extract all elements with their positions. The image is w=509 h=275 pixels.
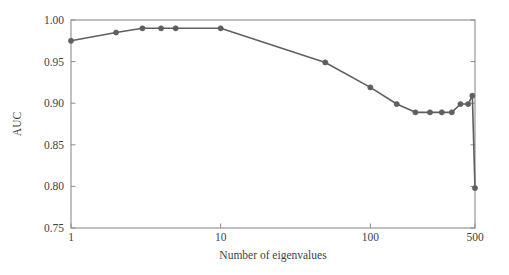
x-tick-label: 500: [466, 231, 484, 243]
y-tick-label: 0.90: [44, 97, 64, 109]
data-point-marker: [368, 85, 373, 90]
data-point-marker: [439, 110, 444, 115]
y-tick-label: 0.80: [44, 180, 64, 192]
y-axis-ticks: 0.750.800.850.900.951.00: [44, 14, 475, 234]
data-point-marker: [466, 101, 471, 106]
data-point-marker: [427, 110, 432, 115]
chart-figure: 110100500 0.750.800.850.900.951.00 Numbe…: [0, 0, 509, 275]
chart-canvas: 110100500 0.750.800.850.900.951.00 Numbe…: [0, 0, 509, 275]
x-axis-ticks: 110100500: [68, 224, 484, 244]
y-tick-label: 0.75: [44, 222, 64, 234]
data-point-marker: [413, 110, 418, 115]
data-point-marker: [470, 93, 475, 98]
data-point-marker: [159, 26, 164, 31]
y-tick-label: 1.00: [44, 14, 64, 26]
x-tick-label: 1: [68, 231, 74, 243]
data-point-marker: [113, 30, 118, 35]
data-point-marker: [458, 101, 463, 106]
x-tick-label: 10: [215, 231, 227, 243]
plot-frame: [71, 20, 475, 228]
y-tick-label: 0.95: [44, 56, 64, 68]
data-point-marker: [218, 26, 223, 31]
data-point-marker: [394, 101, 399, 106]
data-series-layer: [68, 26, 477, 191]
data-point-marker: [449, 110, 454, 115]
y-tick-label: 0.85: [44, 139, 64, 151]
data-point-marker: [472, 185, 477, 190]
y-axis-title: AUC: [11, 112, 23, 137]
series-line: [71, 28, 475, 188]
x-tick-label: 100: [362, 231, 380, 243]
data-point-marker: [173, 26, 178, 31]
data-point-marker: [323, 60, 328, 65]
x-axis-title: Number of eigenvalues: [219, 249, 327, 262]
plot-area-border: [71, 20, 475, 228]
data-point-marker: [68, 38, 73, 43]
data-point-marker: [140, 26, 145, 31]
